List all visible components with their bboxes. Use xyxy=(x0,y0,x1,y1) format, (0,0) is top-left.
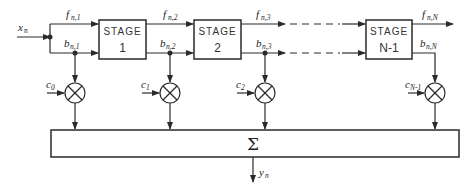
cN-sub: N-1 xyxy=(409,83,421,92)
stage-1-box: STAGE 1 xyxy=(99,20,146,59)
output-sub: n xyxy=(265,171,269,180)
multiplier-0: c 0 xyxy=(46,78,85,103)
c0-sub: 0 xyxy=(51,83,55,92)
b3-sub: n,3 xyxy=(262,42,272,51)
output-label: y xyxy=(258,166,264,178)
bN-output-line xyxy=(412,53,435,82)
multiplier-n-minus-1: c N-1 xyxy=(405,78,445,103)
f1-sub: n,1 xyxy=(71,13,80,22)
f2-sub: n,2 xyxy=(168,13,178,22)
b2-sub: n,2 xyxy=(166,42,176,51)
stage-n-minus-1-number: N-1 xyxy=(379,41,399,55)
multiplier-1: c 1 xyxy=(141,78,180,103)
input-label: x xyxy=(17,21,23,33)
c1-sub: 1 xyxy=(146,83,150,92)
f3-sub: n,3 xyxy=(261,13,271,22)
stage-2-box: STAGE 2 xyxy=(194,20,241,59)
stage-n-minus-1-box: STAGE N-1 xyxy=(366,20,412,59)
input-signal: x n xyxy=(17,21,50,37)
stage-1-number: 1 xyxy=(119,41,126,55)
multiplier-2: c 2 xyxy=(236,78,275,103)
stage-n-minus-1-title: STAGE xyxy=(370,26,408,37)
lattice-filter-diagram: x n f n,1 b n,1 STAGE 1 f n,2 b n,2 STAG… xyxy=(0,0,471,192)
summer-box: Σ xyxy=(51,130,459,157)
fN-sub: n,N xyxy=(427,13,439,22)
stage-1-title: STAGE xyxy=(103,26,141,37)
input-sub: n xyxy=(24,26,28,35)
bN-sub: n,N xyxy=(426,42,438,51)
stage-2-title: STAGE xyxy=(198,26,236,37)
sigma-icon: Σ xyxy=(247,134,259,154)
b1-sub: n,1 xyxy=(70,42,79,51)
stage-2-number: 2 xyxy=(214,41,221,55)
c2-sub: 2 xyxy=(241,83,245,92)
